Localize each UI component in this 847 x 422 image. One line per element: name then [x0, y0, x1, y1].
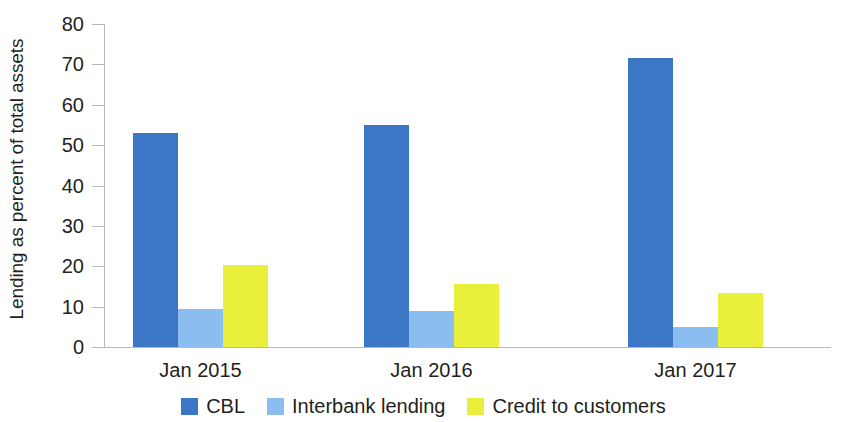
- y-tick-mark: [92, 105, 104, 106]
- bar-interbank-lending-jan-2017: [673, 327, 718, 347]
- y-tick-mark: [92, 307, 104, 308]
- legend-swatch-icon: [267, 398, 284, 415]
- chart-legend: CBLInterbank lendingCredit to customers: [0, 396, 847, 416]
- y-tick-label: 30: [18, 216, 84, 236]
- bar-interbank-lending-jan-2016: [409, 311, 454, 347]
- bar-cbl-jan-2015: [133, 133, 178, 347]
- x-axis-label: Jan 2016: [352, 360, 512, 380]
- legend-label: CBL: [206, 396, 245, 416]
- bar-credit-to-customers-jan-2017: [718, 293, 763, 348]
- y-tick-mark: [92, 24, 104, 25]
- y-tick-mark: [92, 266, 104, 267]
- bar-interbank-lending-jan-2015: [178, 309, 223, 347]
- y-tick-mark: [92, 226, 104, 227]
- bar-credit-to-customers-jan-2015: [223, 265, 268, 347]
- bar-cbl-jan-2017: [628, 58, 673, 347]
- y-tick-label: 50: [18, 135, 84, 155]
- y-tick-label: 80: [18, 14, 84, 34]
- legend-item[interactable]: Interbank lending: [267, 396, 445, 416]
- plot-area: [104, 24, 831, 347]
- bar-chart: Lending as percent of total assets 01020…: [0, 0, 847, 422]
- y-tick-mark: [92, 186, 104, 187]
- y-tick-mark: [92, 145, 104, 146]
- legend-item[interactable]: Credit to customers: [467, 396, 665, 416]
- bar-cbl-jan-2016: [364, 125, 409, 347]
- x-axis-label: Jan 2017: [616, 360, 776, 380]
- legend-label: Interbank lending: [292, 396, 445, 416]
- legend-swatch-icon: [467, 398, 484, 415]
- y-tick-label: 60: [18, 95, 84, 115]
- y-tick-mark: [92, 64, 104, 65]
- y-tick-label: 40: [18, 176, 84, 196]
- y-tick-label: 10: [18, 297, 84, 317]
- y-tick-mark: [92, 347, 104, 348]
- bar-credit-to-customers-jan-2016: [454, 284, 499, 347]
- x-axis-label: Jan 2015: [121, 360, 281, 380]
- legend-swatch-icon: [181, 398, 198, 415]
- y-tick-label: 20: [18, 256, 84, 276]
- y-tick-label: 0: [18, 337, 84, 357]
- legend-label: Credit to customers: [492, 396, 665, 416]
- x-axis-line: [92, 347, 831, 348]
- legend-item[interactable]: CBL: [181, 396, 245, 416]
- y-tick-label: 70: [18, 54, 84, 74]
